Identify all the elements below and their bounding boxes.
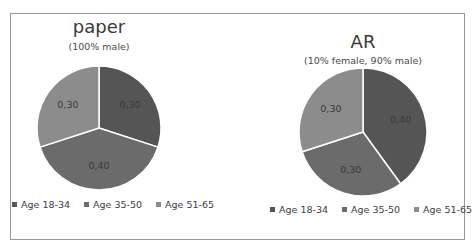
legend: Age 18-34Age 35-50Age 51-65 xyxy=(270,204,472,215)
legend-item: Age 35-50 xyxy=(342,204,400,215)
data-label: 0,30 xyxy=(340,164,361,175)
legend-item: Age 18-34 xyxy=(270,204,328,215)
legend-label: Age 51-65 xyxy=(423,204,472,215)
legend-swatch-icon xyxy=(414,207,419,212)
legend-swatch-icon xyxy=(270,207,275,212)
data-label: 0,40 xyxy=(390,114,411,125)
legend-label: Age 35-50 xyxy=(351,204,400,215)
legend-label: Age 18-34 xyxy=(279,204,328,215)
legend-item: Age 51-65 xyxy=(414,204,472,215)
legend-swatch-icon xyxy=(342,207,347,212)
data-label: 0,30 xyxy=(320,103,341,114)
